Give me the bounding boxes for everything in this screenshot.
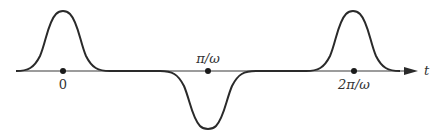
tick-label-pi-over-omega: π/ω xyxy=(195,51,220,66)
axis-label-t: t xyxy=(424,63,430,78)
pulse-train-diagram: 0 π/ω 2π/ω t xyxy=(0,0,442,138)
axis-arrow-icon xyxy=(404,67,418,75)
tick-label-zero: 0 xyxy=(59,77,67,92)
tick-dot-zero xyxy=(60,68,66,74)
tick-dot-two-pi-over-omega xyxy=(351,68,357,74)
tick-dot-pi-over-omega xyxy=(205,68,211,74)
tick-label-two-pi-over-omega: 2π/ω xyxy=(337,77,370,92)
